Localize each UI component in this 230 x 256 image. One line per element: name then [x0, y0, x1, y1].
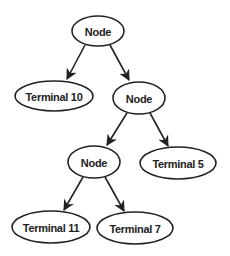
edge-arrow-root-t10: [67, 45, 85, 79]
edge-arrow-root-n2: [110, 45, 129, 80]
edges-group: [64, 45, 168, 211]
nodes-group: NodeTerminal 10NodeNodeTerminal 5Termina…: [12, 16, 216, 244]
node-label: Terminal 5: [152, 158, 203, 170]
edge-arrow-n3-t11: [64, 177, 83, 210]
node-label: Terminal 7: [109, 223, 160, 235]
terminal-node-t7: Terminal 7: [97, 212, 173, 244]
tree-diagram: NodeTerminal 10NodeNodeTerminal 5Termina…: [0, 0, 230, 256]
edge-arrow-n2-t5: [150, 113, 168, 146]
node-label: Node: [81, 157, 107, 169]
terminal-node-t5: Terminal 5: [140, 147, 216, 179]
node-label: Terminal 11: [23, 222, 80, 234]
terminal-node-t11: Terminal 11: [12, 211, 90, 243]
decision-node-n2: Node: [113, 82, 165, 114]
decision-node-n3: Node: [68, 146, 120, 178]
node-label: Node: [126, 93, 152, 105]
terminal-node-t10: Terminal 10: [15, 81, 93, 111]
node-label: Node: [85, 26, 111, 38]
decision-node-root: Node: [72, 16, 124, 46]
node-label: Terminal 10: [25, 91, 82, 103]
edge-arrow-n3-t7: [105, 177, 124, 211]
edge-arrow-n2-n3: [107, 113, 127, 145]
